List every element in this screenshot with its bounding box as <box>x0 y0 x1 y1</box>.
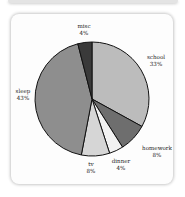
label-sleep-value: 43% <box>17 95 29 101</box>
label-misc-value: 4% <box>80 30 89 36</box>
label-misc-name: misc <box>77 23 90 29</box>
label-homework-name: homework <box>142 145 172 151</box>
label-school-name: school <box>147 54 165 60</box>
label-dinner-name: dinner <box>112 158 131 164</box>
label-school-value: 33% <box>150 61 162 67</box>
pie-chart: school 33% homework 8% dinner 4% tv 8% s… <box>0 0 185 197</box>
pie-slices <box>35 42 149 156</box>
label-sleep-name: sleep <box>16 88 31 95</box>
label-tv-value: 8% <box>87 168 96 174</box>
label-dinner-value: 4% <box>117 165 126 171</box>
label-homework-value: 8% <box>153 152 162 158</box>
label-tv-name: tv <box>88 161 94 167</box>
